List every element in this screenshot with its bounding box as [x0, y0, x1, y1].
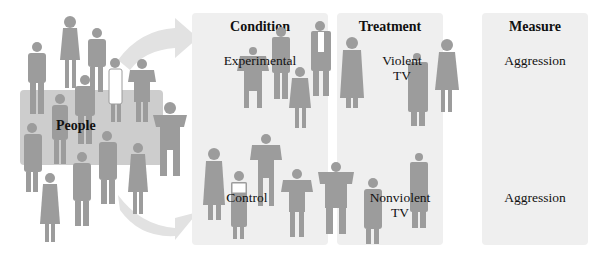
person-figure [203, 148, 225, 220]
person-figure [60, 16, 80, 88]
person-figure [231, 171, 247, 239]
condition-experimental-label: Experimental [192, 53, 328, 68]
person-figure [88, 28, 106, 92]
person-figure [40, 173, 60, 242]
treatment-nonviolent-line1: Nonviolent [355, 190, 445, 205]
person-figure [73, 152, 91, 226]
treatment-violent-label: Violent TV [362, 53, 442, 83]
measure-aggression-label-2: Aggression [482, 190, 588, 205]
treatment-nonviolent-label: Nonviolent TV [355, 190, 445, 220]
person-figure [128, 143, 148, 214]
person-figure [28, 42, 46, 114]
person-figure [153, 102, 187, 176]
person-figure [128, 59, 156, 122]
person-figure [340, 37, 364, 108]
treatment-nonviolent-line2: TV [355, 205, 445, 220]
person-figure [289, 67, 311, 128]
person-figure [99, 131, 117, 204]
condition-control-label: Control [192, 190, 302, 205]
person-figure [318, 162, 354, 234]
person-figure [109, 58, 122, 122]
person-figure [24, 123, 42, 192]
measure-aggression-label-1: Aggression [482, 53, 588, 68]
people-label: People [56, 118, 96, 134]
treatment-violent-line1: Violent [362, 53, 442, 68]
treatment-violent-line2: TV [362, 68, 442, 83]
